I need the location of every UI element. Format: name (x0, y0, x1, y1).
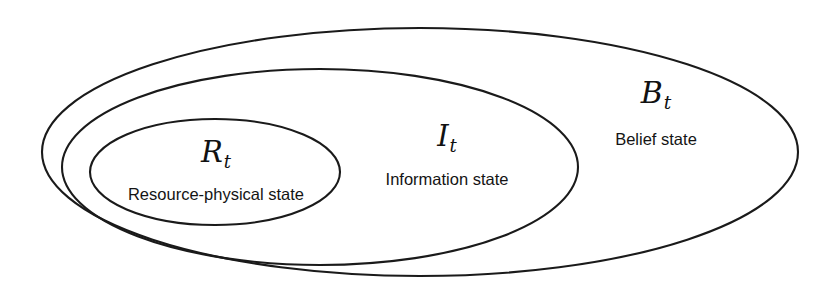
symbol-belief-letter: B (641, 75, 664, 110)
caption-information-state: Information state (356, 170, 538, 188)
symbol-resource: Rt (92, 138, 340, 171)
label-information-state: It Information state (356, 122, 538, 188)
symbol-belief-subscript: t (663, 92, 671, 113)
caption-belief-state: Belief state (560, 130, 752, 148)
symbol-information-letter: I (437, 119, 449, 153)
symbol-resource-letter: R (201, 135, 223, 169)
caption-resource-physical-state: Resource-physical state (92, 185, 340, 203)
symbol-resource-subscript: t (223, 151, 231, 172)
label-belief-state: Bt Belief state (560, 78, 752, 148)
symbol-belief: Bt (560, 78, 752, 113)
symbol-information-subscript: t (449, 135, 457, 156)
venn-diagram-figure: Bt Belief state It Information state Rt … (0, 0, 836, 294)
symbol-information: It (356, 122, 538, 155)
label-resource-physical-state: Rt Resource-physical state (92, 138, 340, 203)
